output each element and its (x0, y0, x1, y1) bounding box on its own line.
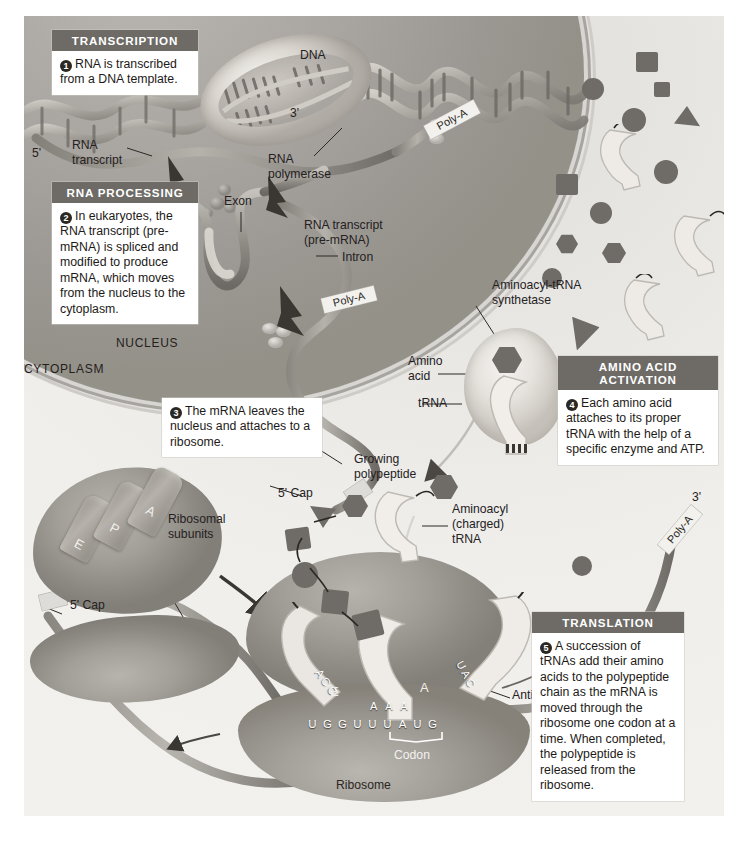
free-amino-acid-square (654, 82, 670, 97)
callout-translation: TRANSLATION 5A succession of tRNAs add t… (532, 612, 684, 801)
callout-transcription-text: RNA is transcribed from a DNA template. (60, 57, 178, 86)
callout-amino-acid-activation-text: Each amino acid attaches to its proper t… (566, 396, 705, 456)
free-trna (670, 210, 724, 282)
callout-transcription-body: 1RNA is transcribed from a DNA template. (52, 51, 198, 95)
free-amino-acid-circle (590, 202, 612, 224)
callout-rna-processing-header: RNA PROCESSING (52, 182, 198, 203)
ribosomal-subunits-label: Ribosomal subunits (168, 512, 226, 542)
diagram-plate: 3' Poly-A Poly-A Poly-A 3' E P A (24, 16, 724, 816)
codon-bracket (388, 732, 448, 748)
a-site-label: A (133, 497, 168, 525)
free-trna (596, 124, 658, 196)
amino-acid-label: Amino acid (408, 354, 443, 384)
mrna-base: U (306, 718, 319, 730)
trna-p-anticodon-bases: A A A (370, 700, 411, 712)
aminoacyl-trna-synthetase-label: Aminoacyl-tRNA synthetase (492, 278, 581, 308)
callout-mrna-export-body: 3The mRNA leaves the nucleus and attache… (162, 398, 322, 457)
rna-transcript-premrna-label: RNA transcript (pre-mRNA) (304, 218, 383, 248)
mrna-base: G (426, 718, 439, 730)
mrna-base: U (381, 718, 394, 730)
callout-transcription-header: TRANSCRIPTION (52, 30, 198, 51)
mrna-base: A (396, 718, 409, 730)
cytoplasm-label: CYTOPLASM (24, 362, 104, 377)
five-cap-ribosome-label: 5' Cap (70, 598, 105, 613)
aminoacyl-charged-trna-label: Aminoacyl (charged) tRNA (452, 502, 508, 547)
free-amino-acid-square (636, 52, 658, 72)
step-number-3: 3 (170, 407, 182, 419)
five-prime-label: 5' (32, 146, 41, 161)
free-amino-acid-square (556, 174, 578, 195)
callout-translation-body: 5A succession of tRNAs add their amino a… (532, 633, 684, 801)
three-prime-polymerase-label: 3' (290, 106, 299, 121)
free-amino-acid-circle (622, 108, 646, 132)
callout-amino-acid-activation-body: 4Each amino acid attaches to its proper … (558, 390, 718, 465)
dna-label: DNA (300, 48, 326, 63)
figure-page: 3' Poly-A Poly-A Poly-A 3' E P A (0, 0, 744, 847)
callout-transcription: TRANSCRIPTION 1RNA is transcribed from a… (52, 30, 198, 95)
callout-rna-processing-text: In eukaryotes, the RNA transcript (pre-m… (60, 209, 185, 316)
callout-mrna-export-text: The mRNA leaves the nucleus and attaches… (170, 404, 310, 449)
callout-amino-acid-activation-header: AMINO ACID ACTIVATION (558, 356, 718, 390)
intron-label: Intron (342, 250, 373, 265)
rna-transcript-label: RNA transcript (72, 138, 122, 168)
callout-rna-processing-body: 2In eukaryotes, the RNA transcript (pre-… (52, 203, 198, 324)
callout-mrna-export: 3The mRNA leaves the nucleus and attache… (162, 398, 322, 457)
ribosome-a-site-letter: A (420, 680, 429, 696)
callout-amino-acid-activation: AMINO ACID ACTIVATION 4Each amino acid a… (558, 356, 718, 465)
ribosome-label: Ribosome (336, 778, 391, 793)
mrna-base: U (411, 718, 424, 730)
charged-trna-arrow (428, 416, 476, 478)
mrna-base: U (351, 718, 364, 730)
nucleus-label: NUCLEUS (116, 336, 178, 351)
three-prime-mrna-label: 3' (692, 490, 701, 505)
trna-anticodon-stripes (506, 444, 528, 453)
step-number-5: 5 (540, 642, 552, 654)
callout-rna-processing: RNA PROCESSING 2In eukaryotes, the RNA t… (52, 182, 198, 324)
free-amino-acid-circle (572, 556, 592, 576)
mrna-base: U (366, 718, 379, 730)
five-cap-mrna-label: 5' Cap (278, 486, 313, 501)
callout-translation-text: A succession of tRNAs add their amino ac… (540, 639, 675, 792)
exon-label: Exon (224, 194, 252, 209)
free-amino-acid-circle (654, 160, 678, 184)
mrna-base: G (321, 718, 334, 730)
trna-in-synthetase (486, 372, 546, 460)
trna-label: tRNA (418, 396, 447, 411)
growing-polypeptide-label: Growing polypeptide (354, 452, 416, 482)
step-number-1: 1 (60, 60, 72, 72)
step-number-4: 4 (566, 399, 578, 411)
free-amino-acid-circle (582, 78, 604, 100)
mrna-base: G (336, 718, 349, 730)
step-number-2: 2 (60, 212, 72, 224)
ribosome-e-site-letter: E (330, 684, 339, 700)
codon-label: Codon (394, 748, 430, 763)
rna-polymerase-label: RNA polymerase (268, 152, 331, 182)
mrna-movement-arrow (170, 734, 220, 748)
free-trna (620, 274, 682, 346)
callout-translation-header: TRANSLATION (532, 612, 684, 633)
